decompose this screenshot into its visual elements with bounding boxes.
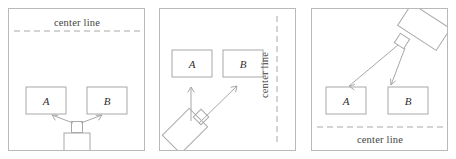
robot-body	[398, 9, 447, 50]
box-b-label: B	[104, 95, 111, 107]
arrow-to-b	[81, 115, 102, 123]
box-a-label: A	[189, 58, 196, 70]
center-line-label: center line	[54, 17, 100, 28]
panel-robot-facing-up: center line A B	[8, 8, 145, 151]
arrow-vertical-to-a	[188, 87, 195, 121]
robot-body	[162, 108, 207, 150]
arrow-to-b	[391, 48, 406, 85]
robot-turret	[193, 109, 209, 125]
panel-robot-rotated-left: center line A B	[159, 8, 296, 151]
panel-3-graphics	[312, 9, 447, 150]
panel-1-graphics	[9, 9, 144, 150]
arrow-to-a	[52, 115, 73, 123]
center-line-label: center line	[357, 134, 403, 145]
box-a-label: A	[43, 95, 50, 107]
center-line-label: center line	[259, 52, 270, 98]
arrow-diagonal-to-b	[199, 86, 237, 123]
figure-three-panel-robot-diagram: center line A B cent	[0, 0, 456, 159]
panel-robot-rotated-right: center line A B	[311, 8, 448, 151]
robot-turret	[72, 122, 83, 133]
panel-2-graphics	[160, 9, 295, 150]
box-b-label: B	[240, 58, 247, 70]
box-a-label: A	[343, 95, 350, 107]
robot-body	[64, 133, 90, 150]
box-b-label: B	[405, 95, 412, 107]
